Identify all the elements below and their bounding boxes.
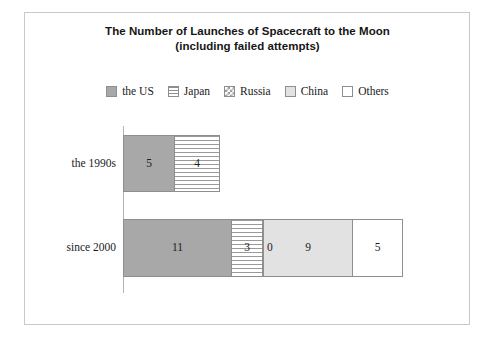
category-label-1990s: the 1990s — [0, 157, 116, 169]
bar-value-2000-russia: 0 — [267, 242, 273, 254]
bar-row-since-2000: 11 3 0 9 5 — [123, 219, 403, 277]
plot-area: the 1990s since 2000 5 4 11 3 0 9 5 — [0, 0, 495, 341]
bar-value-2000-us: 11 — [172, 242, 183, 254]
bar-segment-2000-us: 11 — [123, 219, 232, 277]
bar-row-1990s: 5 4 — [123, 135, 220, 192]
bar-segment-2000-japan: 3 — [232, 219, 263, 277]
category-label-since-2000: since 2000 — [0, 241, 116, 253]
bar-segment-2000-china: 9 — [264, 219, 353, 277]
bar-value-2000-japan: 3 — [244, 242, 250, 254]
bar-segment-1990s-japan: 4 — [175, 135, 220, 192]
bar-value-2000-china: 9 — [305, 242, 311, 254]
bar-segment-2000-others: 5 — [353, 219, 403, 277]
bar-value-1990s-japan: 4 — [194, 158, 200, 170]
bar-value-1990s-us: 5 — [146, 158, 152, 170]
bar-segment-1990s-us: 5 — [123, 135, 175, 192]
bar-value-2000-others: 5 — [375, 242, 381, 254]
